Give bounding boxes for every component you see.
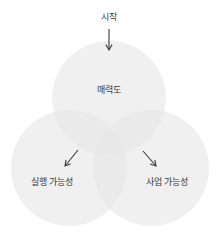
venn-diagram: 시작 매력도 실행 가능성 사업 가능성 bbox=[0, 0, 218, 243]
circle-business-feasibility bbox=[93, 110, 209, 226]
circles bbox=[11, 41, 209, 226]
label-business-feasibility: 사업 가능성 bbox=[146, 177, 189, 187]
label-execution-feasibility: 실행 가능성 bbox=[31, 176, 74, 187]
label-attractiveness: 매력도 bbox=[97, 84, 121, 95]
start-label: 시작 bbox=[101, 12, 117, 22]
